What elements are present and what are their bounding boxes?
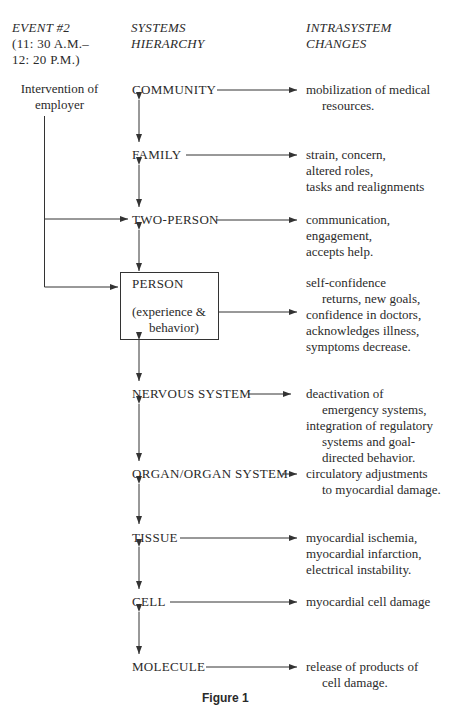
changes-tissue: myocardial ischemia, myocardial infarcti… [306, 530, 422, 578]
change-line: symptoms decrease. [306, 339, 421, 355]
change-line: myocardial cell damage [306, 594, 430, 610]
person-subtitle-line: (experience & [132, 304, 206, 320]
level-community: COMMUNITY [132, 82, 216, 98]
change-line: acknowledges illness, [306, 323, 421, 339]
change-line: electrical instability. [306, 562, 422, 578]
change-line: tasks and realignments [306, 179, 424, 195]
change-line: integration of regulatory [306, 418, 433, 434]
level-nervous-system: NERVOUS SYSTEM [132, 386, 251, 402]
change-line: systems and goal- [306, 434, 433, 450]
change-line: myocardial infarction, [306, 546, 422, 562]
level-tissue: TISSUE [132, 530, 178, 546]
change-line: altered roles, [306, 163, 424, 179]
level-family: FAMILY [132, 147, 181, 163]
change-line: self-confidence [306, 275, 421, 291]
changes-two-person: communication, engagement, accepts help. [306, 212, 390, 260]
changes-nervous-system: deactivation of emergency systems, integ… [306, 386, 433, 466]
change-line: engagement, [306, 228, 390, 244]
person-subtitle-line: behavior) [132, 320, 206, 336]
change-line: resources. [306, 98, 430, 114]
change-line: release of products of [306, 659, 418, 675]
change-line: mobilization of medical [306, 82, 430, 98]
change-line: myocardial ischemia, [306, 530, 422, 546]
change-line: communication, [306, 212, 390, 228]
changes-person: self-confidence returns, new goals, conf… [306, 275, 421, 355]
changes-community: mobilization of medical resources. [306, 82, 430, 114]
level-person: PERSON [132, 276, 184, 292]
change-line: returns, new goals, [306, 291, 421, 307]
change-line: circulatory adjustments [306, 466, 441, 482]
change-line: deactivation of [306, 386, 433, 402]
change-line: strain, concern, [306, 147, 424, 163]
level-cell: CELL [132, 594, 166, 610]
change-line: emergency systems, [306, 402, 433, 418]
change-line: accepts help. [306, 244, 390, 260]
figure-caption: Figure 1 [202, 690, 249, 706]
change-line: confidence in doctors, [306, 307, 421, 323]
person-subtitle: (experience & behavior) [132, 304, 206, 336]
change-line: directed behavior. [306, 450, 433, 466]
changes-molecule: release of products of cell damage. [306, 659, 418, 691]
changes-family: strain, concern, altered roles, tasks an… [306, 147, 424, 195]
change-line: cell damage. [306, 675, 418, 691]
changes-organ-system: circulatory adjustments to myocardial da… [306, 466, 441, 498]
level-organ-system: ORGAN/ORGAN SYSTEM [132, 466, 288, 482]
changes-cell: myocardial cell damage [306, 594, 430, 610]
level-molecule: MOLECULE [132, 659, 205, 675]
change-line: to myocardial damage. [306, 482, 441, 498]
level-two-person: TWO-PERSON [132, 212, 219, 228]
